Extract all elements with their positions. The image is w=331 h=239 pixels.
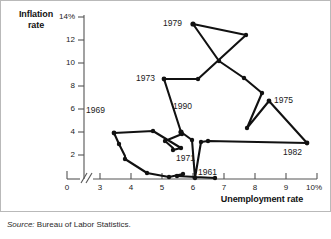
y-tick-label-4: 4 — [49, 127, 75, 136]
point-label-1982: 1982 — [283, 147, 302, 157]
y-tick-label-12: 12 — [49, 35, 75, 44]
x-tick-label-4: 4 — [119, 183, 143, 192]
point-label-1961: 1961 — [198, 167, 217, 177]
y-tick-label-10: 10 — [49, 58, 75, 67]
y-tick-label-2: 2 — [49, 150, 75, 159]
phillips-curve-figure: Inflation rate Unemployment rate 14% 12 … — [0, 0, 331, 239]
point-label-1990: 1990 — [173, 101, 192, 111]
point-label-1973: 1973 — [136, 73, 155, 83]
y-tick-label-8: 8 — [49, 81, 75, 90]
point-label-1979: 1979 — [163, 18, 182, 28]
point-label-1975: 1975 — [274, 95, 293, 105]
x-tick-label-9: 9 — [274, 183, 298, 192]
axis-break-icon — [81, 173, 92, 183]
y-tick-label-14: 14% — [49, 12, 75, 21]
point-label-1969: 1969 — [86, 105, 105, 115]
x-tick-label-0: 0 — [55, 183, 79, 192]
y-tick-label-6: 6 — [49, 104, 75, 113]
x-tick-label-3: 3 — [88, 183, 112, 192]
x-tick-label-5: 5 — [150, 183, 174, 192]
x-tick-label-8: 8 — [243, 183, 267, 192]
x-tick-label-6: 6 — [181, 183, 205, 192]
x-tick-label-7: 7 — [212, 183, 236, 192]
y-axis-title-line2: rate — [7, 20, 65, 31]
source-note-text: Bureau of Labor Statistics. — [35, 220, 131, 229]
point-label-1971: 1971 — [176, 153, 195, 163]
source-note: Source: Bureau of Labor Statistics. — [7, 220, 131, 229]
y-axis-title-line1: Inflation — [19, 9, 53, 19]
source-note-prefix: Source: — [7, 220, 35, 229]
x-tick-label-10: 10% — [302, 183, 326, 192]
x-axis-title: Unemployment rate — [197, 194, 327, 205]
y-axis-ticks — [78, 17, 84, 155]
plot-frame: Inflation rate Unemployment rate 14% 12 … — [0, 0, 331, 212]
